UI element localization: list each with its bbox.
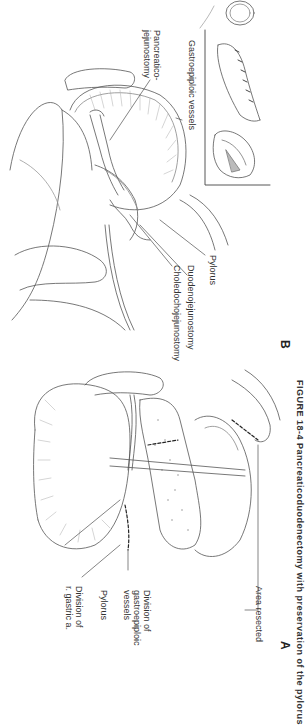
label-gastroepiploic-vessels: Gastroepiploic vessels xyxy=(187,40,197,130)
label-line: vessels xyxy=(122,590,132,646)
label-pylorus-b: Pylorus xyxy=(208,255,218,285)
panel-a-drawing xyxy=(34,370,280,557)
label-line: gastroepiploic xyxy=(132,590,142,646)
label-line: Pancreatico- xyxy=(152,30,162,81)
label-division-r-gastric: Division of r. gastric a. xyxy=(64,586,84,630)
label-duodenojejunostomy: Duodenojejunostomy xyxy=(186,265,196,350)
panel-letter-a: A xyxy=(278,641,292,650)
label-pylorus-a: Pylorus xyxy=(99,590,109,620)
inset-box xyxy=(200,1,270,185)
label-division-gastroepiploic: Division of gastroepiploic vessels xyxy=(122,590,152,646)
label-line: Division of xyxy=(74,586,84,630)
label-choledochojejunostomy: Choledochojejunostomy xyxy=(172,265,182,361)
panel-letter-b: B xyxy=(278,340,292,349)
label-line: jejunostomy xyxy=(142,30,152,81)
label-pancreaticojejunostomy: Pancreatico- jejunostomy xyxy=(142,30,162,81)
label-area-resected: Area resected xyxy=(254,586,264,642)
label-line: Division of xyxy=(142,590,152,646)
label-line: r. gastric a. xyxy=(64,586,74,630)
figure-caption: FIGURE 18-4 Pancreaticoduodenectomy with… xyxy=(295,380,305,725)
